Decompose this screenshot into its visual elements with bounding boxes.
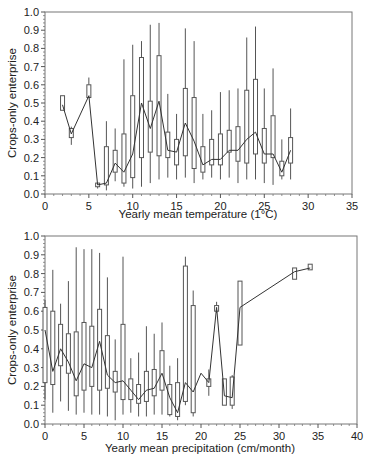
precipitation-x-tick-label: 40	[351, 430, 363, 442]
precipitation-box-x10	[121, 257, 125, 415]
temperature-x-tick-label: 35	[346, 200, 358, 212]
precipitation-y-tick-label: 0.7	[24, 286, 39, 298]
precipitation-box-chart: 0.00.10.20.30.40.50.60.70.80.91.00510152…	[0, 228, 370, 460]
temperature-box-chart: 0.00.10.20.30.40.50.60.70.80.91.00510152…	[0, 0, 370, 225]
temperature-box-x26	[271, 68, 275, 184]
precipitation-box-x12	[137, 353, 141, 417]
precipitation-box-x6	[90, 249, 94, 414]
precipitation-y-tick-label: 0.0	[24, 418, 39, 430]
precipitation-box-x14	[152, 334, 156, 415]
temperature-x-axis-label: Yearly mean temperature (1°C)	[119, 208, 278, 220]
temperature-box-x12	[148, 25, 152, 183]
precipitation-box-x16	[168, 366, 172, 417]
temperature-chart-svg: 0.00.10.20.30.40.50.60.70.80.91.00510152…	[0, 0, 370, 225]
precipitation-x-tick-label: 20	[195, 430, 207, 442]
temperature-box-x18	[201, 114, 205, 180]
precipitation-box-x15	[160, 322, 164, 414]
temperature-box-x22	[236, 88, 240, 183]
precipitation-x-tick-label: 0	[42, 430, 48, 442]
temperature-box-x21	[227, 90, 231, 177]
precipitation-box-x19	[191, 291, 195, 417]
temperature-plot-frame	[45, 12, 352, 194]
precipitation-y-tick-label: 0.1	[24, 399, 39, 411]
precipitation-y-tick-label: 1.0	[24, 230, 39, 242]
precipitation-y-tick-label: 0.3	[24, 362, 39, 374]
precipitation-box-x8	[105, 277, 109, 416]
temperature-box-x5	[87, 78, 91, 98]
precipitation-box-x11	[129, 358, 133, 413]
temperature-y-tick-label: 0.2	[24, 152, 39, 164]
precipitation-y-axis-label: Crops-only enterprise	[6, 275, 18, 385]
temperature-box-x24	[254, 27, 258, 180]
temperature-y-tick-label: 0.8	[24, 42, 39, 54]
temperature-box-x9	[122, 59, 126, 186]
temperature-y-tick-label: 0.1	[24, 170, 39, 182]
temperature-y-tick-label: 0.0	[24, 188, 39, 200]
temperature-box-x28	[289, 108, 293, 179]
temperature-box-x10	[131, 45, 135, 189]
temperature-y-tick-label: 0.5	[24, 97, 39, 109]
precipitation-y-tick-label: 0.8	[24, 268, 39, 280]
temperature-y-tick-label: 0.6	[24, 79, 39, 91]
precipitation-box-x1	[51, 270, 55, 413]
precipitation-box-x32	[293, 268, 297, 279]
precipitation-x-axis-label: Yearly mean precipitation (cm/month)	[105, 442, 295, 454]
precipitation-box-x0	[43, 300, 47, 400]
precipitation-x-tick-label: 15	[156, 430, 168, 442]
precipitation-y-tick-label: 0.2	[24, 380, 39, 392]
precipitation-box-x34	[308, 264, 312, 270]
precipitation-y-tick-label: 0.6	[24, 305, 39, 317]
temperature-plot-area: 0.00.10.20.30.40.50.60.70.80.91.00510152…	[24, 6, 358, 212]
temperature-box-x17	[192, 41, 196, 183]
precipitation-chart-svg: 0.00.10.20.30.40.50.60.70.80.91.00510152…	[0, 228, 370, 460]
precipitation-y-tick-label: 0.5	[24, 324, 39, 336]
precipitation-box-x3	[66, 281, 70, 411]
temperature-y-tick-label: 1.0	[24, 6, 39, 18]
precipitation-plot-area: 0.00.10.20.30.40.50.60.70.80.91.00510152…	[24, 230, 363, 442]
precipitation-x-tick-label: 25	[234, 430, 246, 442]
temperature-x-tick-label: 30	[302, 200, 314, 212]
temperature-y-tick-label: 0.3	[24, 133, 39, 145]
temperature-x-tick-label: 5	[86, 200, 92, 212]
precipitation-y-tick-label: 0.9	[24, 249, 39, 261]
temperature-box-x25	[262, 88, 266, 183]
temperature-box-x23	[245, 37, 249, 179]
precipitation-box-x5	[82, 249, 86, 413]
temperature-y-axis-label: Crops-only enterprise	[6, 48, 18, 158]
temperature-box-x8	[113, 128, 117, 181]
precipitation-box-x9	[113, 339, 117, 420]
precipitation-box-x7	[98, 253, 102, 415]
temperature-box-x16	[183, 28, 187, 177]
precipitation-x-tick-label: 10	[117, 430, 129, 442]
temperature-box-x20	[218, 92, 222, 179]
precipitation-x-tick-label: 35	[312, 430, 324, 442]
temperature-y-tick-label: 0.9	[24, 24, 39, 36]
temperature-y-tick-label: 0.4	[24, 115, 39, 127]
precipitation-x-tick-label: 30	[273, 430, 285, 442]
temperature-box-x14	[166, 94, 170, 178]
temperature-x-tick-label: 0	[42, 200, 48, 212]
temperature-box-x27	[280, 139, 284, 179]
precipitation-box-x13	[144, 326, 148, 416]
temperature-box-x19	[210, 110, 214, 177]
precipitation-y-tick-label: 0.4	[24, 343, 39, 355]
precipitation-box-x4	[74, 247, 78, 414]
temperature-y-tick-label: 0.7	[24, 61, 39, 73]
precipitation-x-tick-label: 5	[81, 430, 87, 442]
